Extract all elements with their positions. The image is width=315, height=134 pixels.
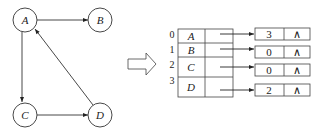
adjvex-value: 0 [266, 64, 272, 76]
graph-node-D: D [88, 103, 112, 127]
adjvex-value: 0 [266, 46, 272, 58]
vertex-label-D: D [186, 81, 195, 93]
hollow-right-arrow-icon [128, 53, 156, 75]
null-pointer-icon: ∧ [293, 84, 301, 96]
pointer-arrows [220, 34, 254, 90]
vertex-index: 1 [170, 44, 175, 55]
adjvex-value: 3 [266, 28, 272, 40]
edge-D-A [35, 29, 93, 105]
vertex-label-B: B [188, 44, 195, 56]
null-pointer-icon: ∧ [293, 28, 301, 40]
vertex-index: 2 [170, 59, 175, 70]
vertex-index: 0 [170, 29, 175, 40]
graph-node-A: A [13, 8, 37, 32]
node-label: A [21, 14, 29, 26]
graph-node-C: C [13, 103, 37, 127]
edge-node-0: 3 ∧ [255, 28, 310, 40]
edge-node-3: 2 ∧ [255, 84, 310, 96]
diagram-canvas: A B C D 0 1 2 3 A B C D 3 ∧ [0, 0, 315, 134]
vertex-label-C: C [187, 61, 195, 73]
graph-node-B: B [88, 8, 112, 32]
null-pointer-icon: ∧ [293, 64, 301, 76]
edge-node-1: 0 ∧ [255, 46, 310, 58]
node-label: D [95, 109, 104, 121]
node-label: C [21, 109, 29, 121]
vertex-label-A: A [187, 30, 195, 42]
adjvex-value: 2 [266, 84, 272, 96]
node-label: B [97, 14, 104, 26]
null-pointer-icon: ∧ [293, 46, 301, 58]
vertex-index: 3 [170, 75, 175, 86]
graph-edges [22, 20, 93, 115]
edge-node-2: 0 ∧ [255, 64, 310, 76]
